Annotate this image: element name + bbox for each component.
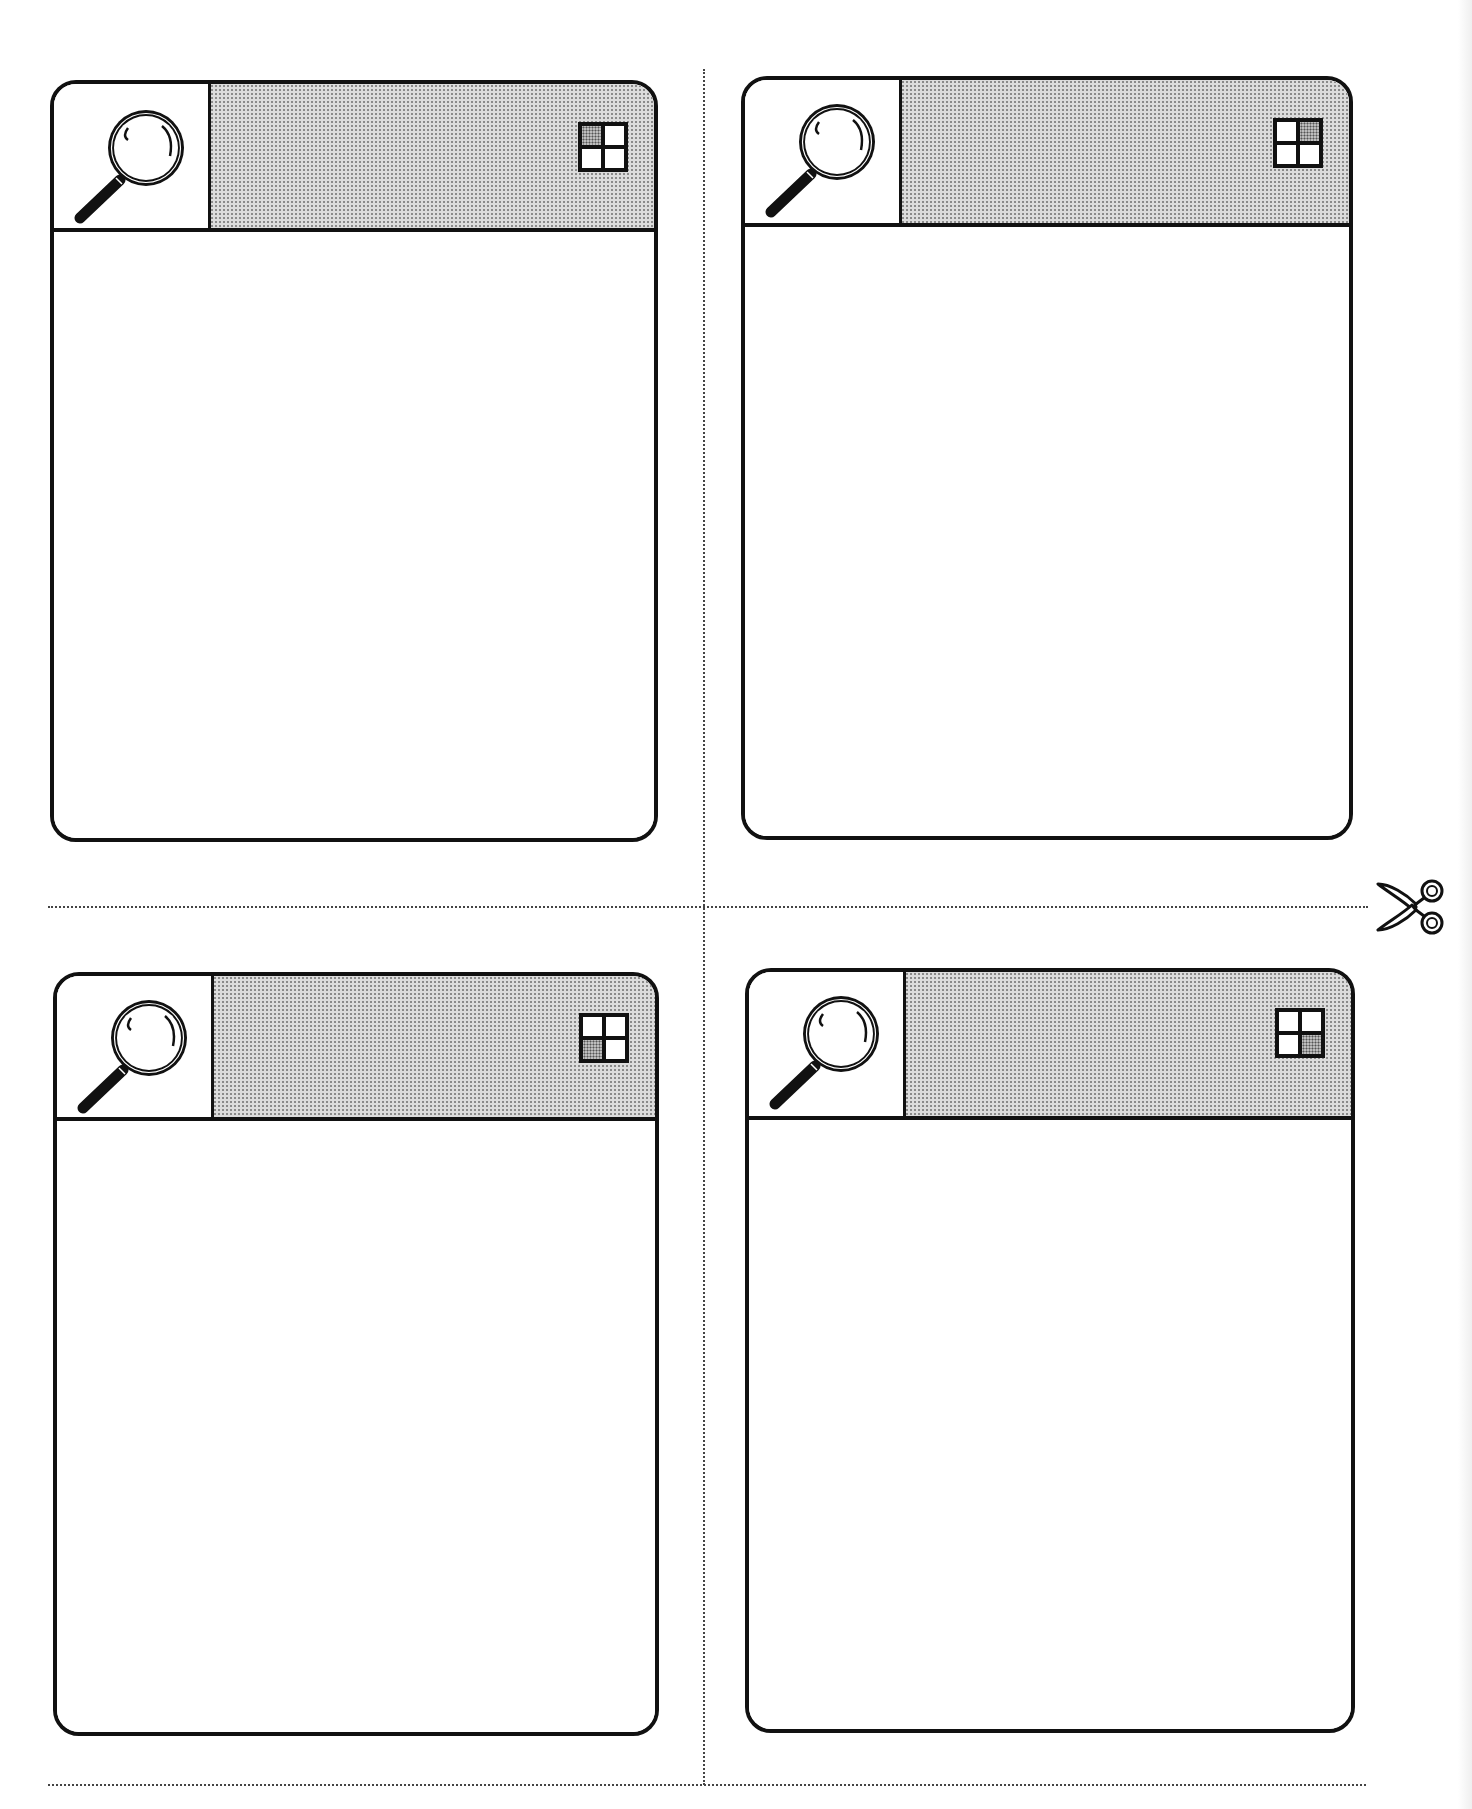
card-body bbox=[745, 227, 1349, 836]
quadrant-top-right bbox=[606, 1017, 625, 1036]
quadrant-bottom-left bbox=[1279, 1035, 1298, 1054]
card-body bbox=[54, 232, 654, 838]
quadrant-bottom-left bbox=[1277, 145, 1296, 164]
quadrant-bottom-right bbox=[1302, 1035, 1321, 1054]
icon-cell bbox=[749, 972, 906, 1116]
quadrant-bottom-right bbox=[605, 149, 624, 168]
quadrant-top-left bbox=[582, 126, 601, 145]
magnifier-icon bbox=[757, 980, 887, 1110]
card-body bbox=[749, 1120, 1351, 1729]
quadrant-bottom-left bbox=[583, 1040, 602, 1059]
card-header bbox=[57, 976, 655, 1121]
horizontal-cut-line bbox=[48, 906, 1368, 908]
quadrant-top-left bbox=[1279, 1012, 1298, 1031]
quadrant-top-left bbox=[583, 1017, 602, 1036]
icon-cell bbox=[54, 84, 211, 228]
card-header bbox=[749, 972, 1351, 1120]
quadrant-top-right bbox=[605, 126, 624, 145]
magnifier-icon bbox=[753, 88, 883, 218]
icon-cell bbox=[57, 976, 214, 1117]
card-bottom-left bbox=[53, 972, 659, 1736]
quadrant-top-right bbox=[1300, 122, 1319, 141]
page-edge-shadow bbox=[1458, 0, 1472, 1809]
card-bottom-right bbox=[745, 968, 1355, 1733]
magnifier-icon bbox=[62, 94, 192, 224]
quadrant-top-left bbox=[1277, 122, 1296, 141]
grid-quadrant-icon bbox=[579, 1013, 629, 1063]
grid-quadrant-icon bbox=[1275, 1008, 1325, 1058]
grid-quadrant-icon bbox=[1273, 118, 1323, 168]
vertical-cut-line bbox=[703, 69, 705, 1785]
quadrant-bottom-right bbox=[606, 1040, 625, 1059]
quadrant-bottom-right bbox=[1300, 145, 1319, 164]
card-header bbox=[54, 84, 654, 232]
bottom-cut-line bbox=[48, 1784, 1366, 1786]
scissors-icon bbox=[1376, 876, 1448, 938]
card-top-left bbox=[50, 80, 658, 842]
grid-quadrant-icon bbox=[578, 122, 628, 172]
icon-cell bbox=[745, 80, 902, 223]
magnifier-icon bbox=[65, 984, 195, 1114]
card-top-right bbox=[741, 76, 1353, 840]
quadrant-top-right bbox=[1302, 1012, 1321, 1031]
card-body bbox=[57, 1121, 655, 1732]
card-header bbox=[745, 80, 1349, 227]
quadrant-bottom-left bbox=[582, 149, 601, 168]
